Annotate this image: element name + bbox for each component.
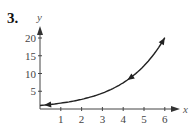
y-tick-label: 15: [25, 50, 37, 62]
y-axis-arrow-icon: [37, 26, 43, 35]
curve: [40, 36, 167, 108]
start-arrow-icon: [44, 101, 52, 108]
x-axis-label: x: [182, 103, 188, 115]
x-tick-label: 5: [141, 113, 147, 125]
x-tick-label: 3: [100, 113, 106, 125]
y-axis-label: y: [36, 11, 42, 23]
x-tick-label: 1: [58, 113, 64, 125]
curve-line: [40, 38, 165, 106]
x-tick-label: 6: [162, 113, 168, 125]
x-tick-label: 4: [120, 113, 126, 125]
y-tick-label: 5: [31, 85, 37, 97]
axes: 1234565101520xy: [25, 11, 188, 125]
y-tick-label: 20: [25, 32, 37, 44]
x-tick-label: 2: [79, 113, 85, 125]
chart: 1234565101520xy: [0, 0, 194, 129]
y-tick-label: 10: [25, 68, 37, 80]
x-axis-arrow-icon: [171, 106, 180, 112]
end-arrow-icon: [159, 36, 168, 45]
